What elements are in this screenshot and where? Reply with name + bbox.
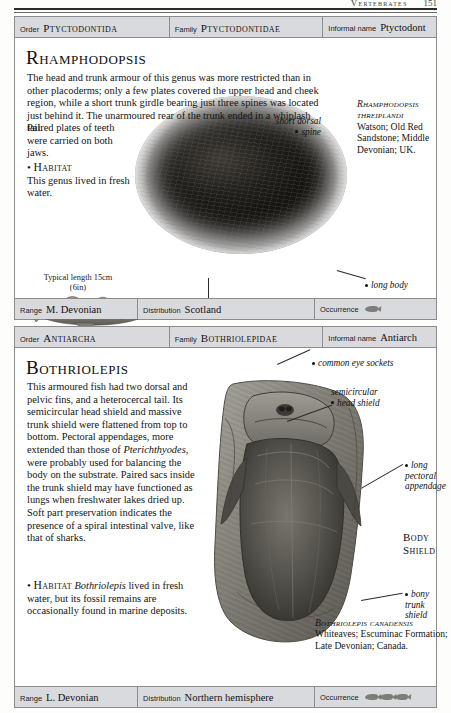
annotation-line-3: appendage [405, 481, 446, 491]
annotation-bony-trunk-shield: bony trunk shield [405, 589, 451, 621]
header-rule-thin [14, 12, 437, 13]
fish-icon [394, 694, 408, 700]
specimen-caption-rhamphodopsis: Rhamphodopsis threiplandi Watson; Old Re… [357, 98, 451, 155]
header-rule-thick [14, 8, 437, 10]
body-shield-label: Body Shield [403, 531, 451, 556]
order-label: Order [20, 329, 39, 344]
annotation-bullet-icon [405, 464, 408, 467]
running-head-title: Vertebrates [351, 0, 408, 8]
annotation-bullet-icon [365, 284, 368, 287]
distribution-label: Distribution [143, 300, 181, 315]
annotation-line-3: shield [405, 610, 427, 620]
range-footer-rhamphodopsis: Range M. Devonian Distribution Scotland … [15, 298, 436, 319]
informal-name-cell: Informal name Antiarch [322, 327, 436, 347]
leader-line-long-body [337, 270, 366, 279]
genus-cross-reference: Pterichthyodes [123, 444, 185, 455]
habitat-block: • Habitat This genus lived in fresh wate… [27, 161, 139, 200]
order-value: Antiarcha [43, 327, 96, 344]
occurrence-label: Occurrence [320, 299, 359, 314]
description-paragraph-narrow: Paired plates of teeth were carried on b… [27, 122, 135, 160]
description-part-2: , were probably used for balancing the b… [27, 444, 195, 543]
taxonomy-header-rhamphodopsis: Order Ptyctodontida Family Ptyctodontida… [15, 17, 436, 38]
annotation-bullet-icon [405, 593, 408, 596]
annotation-short-dorsal-spine: short dorsal spine [251, 116, 321, 137]
distribution-value: Scotland [185, 299, 222, 315]
occurrence-label: Occurrence [320, 687, 359, 702]
family-value: Ptyctodontidae [201, 17, 281, 34]
entry-card-rhamphodopsis: Order Ptyctodontida Family Ptyctodontida… [14, 16, 437, 320]
habitat-heading: Habitat [34, 579, 72, 592]
range-cell: Range L. Devonian [15, 687, 137, 707]
specimen-details: Whiteaves; Escuminac Formation; Late Dev… [315, 628, 448, 650]
annotation-line-2: trunk [405, 600, 425, 610]
typical-length-rhamphodopsis: Typical length 15cm (6in) [39, 273, 117, 293]
range-cell: Range M. Devonian [15, 299, 137, 319]
family-cell: Family Bothriolepidae [169, 327, 323, 347]
annotation-long-body: long body [365, 280, 408, 291]
annotation-text: long body [371, 280, 408, 290]
body-shield-text: Body Shield [403, 531, 436, 556]
annotation-line-2: spine [301, 127, 321, 137]
annotation-bullet-icon [295, 130, 298, 133]
genus-heading: Bothriolepis [26, 357, 128, 379]
specimen-caption-bothriolepis: Bothriolepis canadensis Whiteaves; Escum… [315, 617, 451, 651]
specimen-scientific-name: Rhamphodopsis threiplandi [357, 98, 451, 121]
annotation-common-eye-sockets: common eye sockets [312, 358, 393, 369]
distribution-cell: Distribution Scotland [137, 299, 314, 319]
bullet-icon: • [27, 161, 34, 173]
annotation-text: common eye sockets [318, 358, 393, 368]
entry-body-rhamphodopsis: Rhamphodopsis The head and trunk armour … [15, 38, 436, 298]
fish-icon [379, 694, 393, 700]
annotation-line-2: pectoral [405, 471, 436, 481]
informal-name-value: Ptyctodont [380, 17, 426, 33]
family-cell: Family Ptyctodontidae [169, 17, 323, 37]
description-paragraph: This armoured fish had two dorsal and pe… [27, 381, 203, 545]
family-value: Bothriolepidae [201, 327, 277, 344]
family-label: Family [175, 329, 197, 344]
annotation-line-1: long [411, 460, 428, 470]
occurrence-rating-icons [365, 688, 408, 700]
order-label: Order [20, 19, 39, 34]
bullet-icon: • [27, 579, 34, 591]
entry-card-bothriolepis: Order Antiarcha Family Bothriolepidae In… [14, 326, 437, 708]
range-label: Range [20, 300, 42, 315]
informal-name-label: Informal name [328, 328, 376, 343]
habitat-block: • Habitat Bothriolepis lived in fresh wa… [27, 579, 209, 618]
distribution-cell: Distribution Northern hemisphere [137, 687, 314, 707]
page-root: Vertebrates151 Order Ptyctodontida Famil… [0, 0, 451, 713]
distribution-label: Distribution [143, 688, 181, 703]
fish-icon [364, 694, 378, 700]
annotation-line-2: head shield [337, 398, 380, 408]
habitat-text: This genus lived in fresh water. [27, 175, 130, 199]
range-footer-bothriolepis: Range L. Devonian Distribution Northern … [15, 686, 436, 707]
annotation-semicircular-head-shield: semicircular head shield [331, 387, 417, 408]
informal-name-cell: Informal name Ptyctodont [322, 17, 436, 37]
informal-name-value: Antiarch [380, 327, 417, 343]
informal-name-label: Informal name [328, 18, 376, 33]
habitat-heading: Habitat [34, 161, 72, 174]
annotation-line-1: short dorsal [276, 116, 321, 126]
order-cell: Order Ptyctodontida [15, 17, 169, 37]
fish-icon [364, 306, 378, 312]
annotation-long-pectoral-appendage: long pectoral appendage [405, 460, 451, 492]
annotation-line-1: bony [411, 589, 429, 599]
leader-line-eye-sockets [277, 349, 310, 365]
annotation-bullet-icon [312, 362, 315, 365]
annotation-line-1: semicircular [331, 387, 378, 397]
occurrence-cell: Occurrence [314, 687, 436, 707]
specimen-details: Watson; Old Red Sandstone; Middle Devoni… [357, 121, 429, 155]
family-label: Family [175, 19, 197, 34]
range-value: L. Devonian [46, 687, 99, 703]
range-label: Range [20, 688, 42, 703]
order-cell: Order Antiarcha [15, 327, 169, 347]
range-value: M. Devonian [46, 299, 101, 315]
occurrence-cell: Occurrence [314, 299, 436, 319]
distribution-value: Northern hemisphere [185, 687, 274, 703]
taxonomy-header-bothriolepis: Order Antiarcha Family Bothriolepidae In… [15, 327, 436, 348]
page-folio: 151 [424, 0, 438, 8]
running-head: Vertebrates151 [351, 0, 437, 8]
typical-length-text: Typical length 15cm (6in) [44, 273, 113, 292]
entry-body-bothriolepis: Bothriolepis This armoured fish had two … [15, 348, 436, 686]
order-value: Ptyctodontida [43, 17, 117, 34]
habitat-genus-name: Bothriolepis [75, 580, 126, 591]
